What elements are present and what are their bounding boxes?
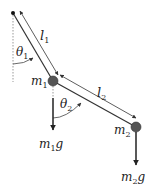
pivot-point — [11, 11, 15, 15]
label-m1g: m1g — [39, 137, 63, 153]
mass-m1 — [48, 76, 58, 86]
label-theta2: θ2 — [60, 97, 72, 113]
label-m2g: m2g — [121, 170, 145, 185]
label-l1: l1 — [40, 28, 49, 45]
mass-m2 — [131, 122, 141, 132]
label-m1: m1 — [31, 74, 47, 90]
double-pendulum-diagram: l1 l2 θ1 θ2 m1 m2 m1g m2g — [0, 0, 154, 185]
label-theta1: θ1 — [16, 45, 28, 61]
label-l2: l2 — [97, 85, 106, 102]
label-m2: m2 — [114, 123, 130, 139]
length-l1-arrow — [20, 11, 58, 75]
